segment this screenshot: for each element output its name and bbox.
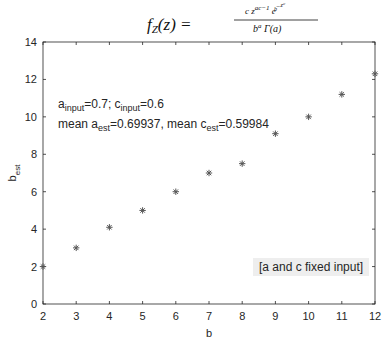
x-tick-label: 6 — [173, 310, 179, 322]
x-axis-label: b — [206, 327, 212, 339]
axes: 2345678910111202468101214bbest — [6, 36, 381, 339]
data-point — [339, 91, 345, 97]
chart-title: fZ(z) = c zac−1 e−zc b ba Γ(a) — [0, 0, 390, 40]
title-denominator: ba Γ(a) — [253, 22, 282, 35]
x-tick-label: 3 — [73, 310, 79, 322]
y-tick-label: 12 — [25, 73, 37, 85]
y-axis-label: best — [6, 164, 22, 182]
title-numerator: c zac−1 e−zc — [245, 1, 286, 16]
y-tick-label: 8 — [31, 148, 37, 160]
y-tick-label: 0 — [31, 298, 37, 310]
y-tick-label: 6 — [31, 186, 37, 198]
data-point — [139, 207, 145, 213]
parameter-annotation: ainput=0.7; cinput=0.6 mean aest=0.69937… — [58, 96, 269, 136]
x-tick-label: 10 — [302, 310, 314, 322]
x-tick-label: 2 — [40, 310, 46, 322]
data-point — [73, 245, 79, 251]
x-tick-label: 4 — [106, 310, 112, 322]
data-point — [239, 160, 245, 166]
y-tick-label: 2 — [31, 261, 37, 273]
y-tick-label: 10 — [25, 111, 37, 123]
data-point — [40, 263, 46, 269]
x-tick-label: 11 — [336, 310, 347, 322]
data-point — [372, 71, 378, 77]
data-point — [305, 114, 311, 120]
x-tick-label: 9 — [272, 310, 278, 322]
x-tick-label: 7 — [206, 310, 212, 322]
title-lhs: fZ(z) = — [147, 15, 192, 35]
data-point — [106, 224, 112, 230]
svg-text:b: b — [274, 6, 277, 12]
x-tick-label: 12 — [369, 310, 381, 322]
data-point — [173, 189, 179, 195]
data-point — [272, 131, 278, 137]
fixed-input-label: [a and c fixed input] — [253, 258, 369, 276]
y-tick-label: 4 — [31, 223, 37, 235]
scatter-chart: 2345678910111202468101214bbest — [0, 0, 390, 348]
input-params: ainput=0.7; cinput=0.6 — [58, 96, 269, 116]
data-point — [206, 170, 212, 176]
x-tick-label: 5 — [140, 310, 146, 322]
x-tick-label: 8 — [239, 310, 245, 322]
estimated-params: mean aest=0.69937, mean cest=0.59984 — [58, 116, 269, 136]
